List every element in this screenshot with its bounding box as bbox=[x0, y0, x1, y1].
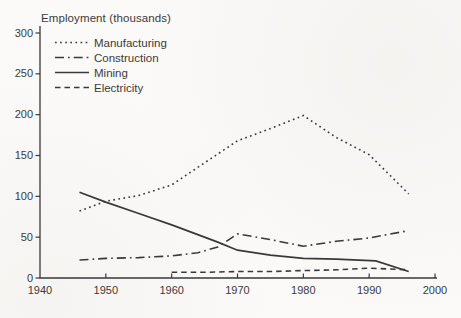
series-line-construction bbox=[80, 231, 409, 260]
x-tick-label-1960: 1960 bbox=[159, 284, 183, 296]
y-tick-label-250: 250 bbox=[15, 67, 33, 79]
y-tick-label-150: 150 bbox=[15, 149, 33, 161]
scanned-chart-page: Employment (thousands) 05010015020025030… bbox=[0, 0, 461, 318]
x-tick-label-1940: 1940 bbox=[28, 284, 52, 296]
series-line-manufacturing bbox=[80, 116, 409, 212]
y-tick-label-200: 200 bbox=[15, 108, 33, 120]
employment-line-chart: 0501001502002503001940195019601970198019… bbox=[0, 0, 461, 318]
legend-label-electricity: Electricity bbox=[94, 82, 143, 94]
y-tick-label-100: 100 bbox=[15, 190, 33, 202]
x-tick-label-2000: 2000 bbox=[423, 284, 447, 296]
legend-label-manufacturing: Manufacturing bbox=[94, 37, 167, 49]
series-line-mining bbox=[80, 192, 409, 271]
y-tick-label-0: 0 bbox=[27, 272, 33, 284]
series-line-electricity bbox=[172, 268, 409, 272]
x-tick-label-1980: 1980 bbox=[291, 284, 315, 296]
x-tick-label-1950: 1950 bbox=[94, 284, 118, 296]
legend-label-mining: Mining bbox=[94, 67, 128, 79]
y-tick-label-50: 50 bbox=[21, 231, 33, 243]
x-tick-label-1970: 1970 bbox=[225, 284, 249, 296]
x-tick-label-1990: 1990 bbox=[357, 284, 381, 296]
axes bbox=[40, 26, 437, 278]
legend-label-construction: Construction bbox=[94, 52, 159, 64]
y-tick-label-300: 300 bbox=[15, 27, 33, 39]
